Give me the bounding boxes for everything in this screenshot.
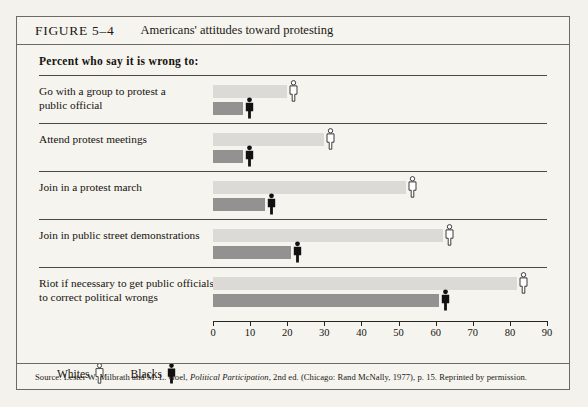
axis-tick	[399, 321, 400, 326]
axis-tick	[361, 321, 362, 326]
row-label-line: public official	[39, 99, 217, 113]
source-note-prefix: Source: Lester W. Milbrath and M. L. Goe…	[35, 372, 190, 382]
figure-body: Percent who say it is wrong to: Go with …	[17, 45, 569, 389]
axis-tick-label: 40	[356, 327, 367, 338]
axis-tick-label: 80	[505, 327, 516, 338]
person-icon-white	[325, 128, 336, 150]
axis-tick	[287, 321, 288, 326]
axis-tick	[213, 321, 214, 326]
axis-tick-label: 10	[245, 327, 256, 338]
figure-title: Americans' attitudes toward protesting	[140, 23, 333, 38]
x-axis: 0102030405060708090	[17, 321, 569, 347]
axis-tick-label: 50	[393, 327, 404, 338]
row-label-line: Go with a group to protest a	[39, 85, 217, 99]
source-note-suffix: , 2nd ed. (Chicago: Rand McNally, 1977),…	[269, 372, 527, 382]
row-label-line: Join in public street demonstrations	[39, 229, 217, 243]
bar-blacks	[213, 102, 243, 115]
axis-tick	[510, 321, 511, 326]
axis-tick	[473, 321, 474, 326]
bar-whites	[213, 181, 406, 194]
person-icon-black	[244, 145, 255, 167]
axis-tick	[324, 321, 325, 326]
row-label-line: to correct political wrongs	[39, 291, 217, 305]
bar-blacks	[213, 294, 439, 307]
row-separator	[39, 219, 547, 220]
row-label: Go with a group to protest apublic offic…	[39, 85, 217, 112]
axis-tick-label: 70	[468, 327, 479, 338]
row-label: Join in public street demonstrations	[39, 229, 217, 243]
bar-blacks	[213, 150, 243, 163]
person-icon-black	[266, 193, 277, 215]
axis-tick-label: 30	[319, 327, 330, 338]
axis-tick-label: 20	[282, 327, 293, 338]
row-label-line: Riot if necessary to get public official…	[39, 277, 217, 291]
person-icon-black	[440, 289, 451, 311]
bar-whites	[213, 133, 324, 146]
bar-whites	[213, 277, 517, 290]
person-icon-black	[292, 241, 303, 263]
row-separator	[39, 171, 547, 172]
source-note: Source: Lester W. Milbrath and M. L. Goe…	[35, 372, 527, 382]
row-separator	[39, 75, 547, 76]
person-icon-white	[518, 272, 529, 294]
axis-tick-label: 0	[210, 327, 215, 338]
figure-box: FIGURE 5–4 Americans' attitudes toward p…	[16, 16, 570, 390]
row-separator	[39, 267, 547, 268]
bar-blacks	[213, 246, 291, 259]
axis-tick-label: 90	[542, 327, 553, 338]
person-icon-black	[244, 97, 255, 119]
axis-tick	[250, 321, 251, 326]
figure-number: FIGURE 5–4	[35, 23, 114, 39]
axis-line	[213, 321, 547, 322]
axis-tick	[547, 321, 548, 326]
source-note-title: Political Participation	[190, 372, 269, 382]
row-label-line: Join in a protest march	[39, 181, 217, 195]
row-separator	[39, 123, 547, 124]
row-label: Riot if necessary to get public official…	[39, 277, 217, 304]
axis-tick-label: 60	[430, 327, 441, 338]
person-icon-white	[407, 176, 418, 198]
bar-blacks	[213, 198, 265, 211]
source-note-bar: Source: Lester W. Milbrath and M. L. Goe…	[17, 363, 569, 389]
figure-title-bar: FIGURE 5–4 Americans' attitudes toward p…	[17, 17, 569, 45]
bar-whites	[213, 229, 443, 242]
person-icon-white	[288, 80, 299, 102]
person-icon-white	[444, 224, 455, 246]
row-label-line: Attend protest meetings	[39, 133, 217, 147]
bar-chart: Go with a group to protest apublic offic…	[17, 75, 569, 337]
row-label: Join in a protest march	[39, 181, 217, 195]
figure-page: FIGURE 5–4 Americans' attitudes toward p…	[0, 0, 588, 407]
row-label: Attend protest meetings	[39, 133, 217, 147]
chart-subhead: Percent who say it is wrong to:	[39, 55, 199, 67]
axis-tick	[436, 321, 437, 326]
